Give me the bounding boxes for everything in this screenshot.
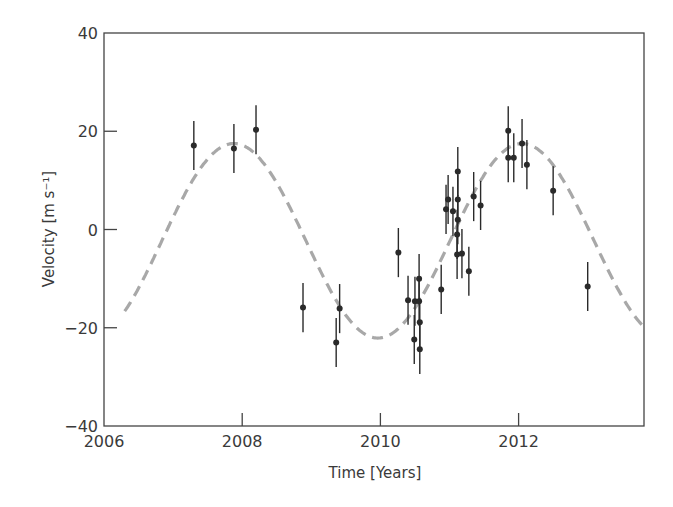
plot-border bbox=[104, 33, 644, 426]
point-marker bbox=[455, 169, 461, 175]
data-point bbox=[524, 140, 530, 189]
point-marker bbox=[585, 283, 591, 289]
radial-velocity-chart: −40−2002040 2006200820102012 Time [Years… bbox=[0, 0, 673, 507]
point-marker bbox=[417, 319, 423, 325]
x-tick-label: 2012 bbox=[498, 432, 539, 451]
y-tick-label: 0 bbox=[88, 221, 98, 240]
y-axis: −40−2002040 bbox=[64, 24, 117, 436]
fit-curve-path bbox=[125, 144, 643, 339]
data-point bbox=[191, 121, 197, 170]
x-axis: 2006200820102012 bbox=[84, 413, 539, 451]
data-point bbox=[478, 181, 484, 230]
point-marker bbox=[333, 339, 339, 345]
point-marker bbox=[253, 127, 259, 133]
x-tick-label: 2010 bbox=[360, 432, 401, 451]
data-point bbox=[438, 265, 444, 314]
point-marker bbox=[411, 337, 417, 343]
point-marker bbox=[505, 155, 511, 161]
data-point bbox=[459, 229, 465, 278]
point-marker bbox=[191, 142, 197, 148]
data-point bbox=[585, 262, 591, 311]
plot-frame bbox=[104, 33, 644, 426]
data-point bbox=[417, 325, 423, 374]
data-point bbox=[550, 166, 556, 215]
data-point bbox=[333, 318, 339, 367]
point-marker bbox=[459, 251, 465, 257]
x-tick-label: 2006 bbox=[84, 432, 125, 451]
point-marker bbox=[524, 162, 530, 168]
point-marker bbox=[300, 305, 306, 311]
data-point bbox=[300, 283, 306, 332]
point-marker bbox=[337, 306, 343, 312]
data-point bbox=[337, 284, 343, 333]
data-point bbox=[253, 105, 259, 154]
point-marker bbox=[466, 268, 472, 274]
point-marker bbox=[550, 188, 556, 194]
point-marker bbox=[450, 208, 456, 214]
point-marker bbox=[471, 194, 477, 200]
data-point bbox=[519, 119, 525, 168]
data-point bbox=[395, 228, 401, 277]
x-axis-label: Time [Years] bbox=[328, 464, 422, 482]
y-tick-label: 20 bbox=[78, 122, 98, 141]
point-marker bbox=[231, 145, 237, 151]
point-marker bbox=[505, 128, 511, 134]
data-point bbox=[471, 172, 477, 221]
fit-curve bbox=[125, 144, 643, 339]
point-marker bbox=[395, 250, 401, 256]
data-point bbox=[511, 133, 517, 182]
point-marker bbox=[445, 197, 451, 203]
point-marker bbox=[519, 141, 525, 147]
x-tick-label: 2008 bbox=[222, 432, 263, 451]
point-marker bbox=[438, 286, 444, 292]
point-marker bbox=[405, 297, 411, 303]
point-marker bbox=[478, 202, 484, 208]
point-marker bbox=[511, 155, 517, 161]
point-marker bbox=[417, 346, 423, 352]
y-axis-label: Velocity [m s⁻¹] bbox=[40, 171, 58, 287]
y-tick-label: −20 bbox=[64, 319, 98, 338]
data-point bbox=[231, 124, 237, 173]
y-tick-label: 40 bbox=[78, 24, 98, 43]
data-point bbox=[466, 247, 472, 296]
